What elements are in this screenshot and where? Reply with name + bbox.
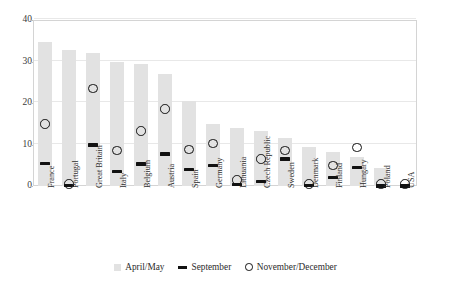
marker-september [280,157,290,160]
bar-group [110,20,123,186]
x-axis-tick-label: Great Britain [96,145,104,188]
x-axis-tick-label: Finland [336,163,344,188]
y-axis-tick-label: 30 [10,57,32,67]
y-axis-tick-label: 10 [10,140,32,150]
x-axis-tick-label: Spain [192,169,200,188]
dash-swatch-icon [178,266,187,269]
x-axis-tick-label: Belgium [144,160,152,188]
x-axis-tick-label: France [48,166,56,188]
x-axis-tick-label: Italy [120,173,128,188]
x-axis-tick-label: USA [408,172,416,188]
x-axis-tick-label: Austria [168,164,176,188]
legend-label: September [191,262,231,272]
marker-november-december [160,104,170,114]
marker-november-december [88,84,98,94]
legend-item[interactable]: November/December [245,262,337,272]
x-axis-tick-label: Lithuania [240,157,248,188]
marker-september [40,162,50,165]
y-axis-tick-mark [30,186,33,187]
x-axis-tick-label: Czech Republic [264,136,272,188]
x-axis-tick-label: Sweden [288,162,296,188]
bar-group [158,20,171,186]
seroprevalence-bar-chart: 010203040 FrancePortugalGreat BritainIta… [0,0,451,289]
chart-legend: April/MaySeptemberNovember/December [0,262,451,272]
bar-april-may [110,62,123,187]
marker-november-december [40,119,50,129]
gridline [34,18,416,19]
marker-november-december [136,126,146,136]
x-axis-tick-label: Portugal [72,160,80,188]
marker-november-december [184,145,194,155]
marker-september [160,152,170,155]
x-axis-labels: FrancePortugalGreat BritainItalyBelgiumA… [33,188,417,250]
y-axis-tick-label: 0 [10,181,32,191]
legend-item[interactable]: April/May [114,262,164,272]
legend-label: November/December [257,262,337,272]
y-axis-tick-label: 40 [10,15,32,25]
marker-november-december [352,143,362,153]
legend-label: April/May [125,262,164,272]
x-axis-tick-label: Poland [384,165,392,188]
bar-group [182,20,195,186]
marker-november-december [208,139,218,149]
x-axis-tick-label: Denmark [312,158,320,188]
circle-swatch-icon [245,263,253,271]
x-axis-tick-label: Germany [216,158,224,188]
x-axis-tick-label: Hungary [360,159,368,188]
bar-group [326,20,339,186]
legend-item[interactable]: September [178,262,231,272]
y-axis-tick-label: 20 [10,98,32,108]
bar-swatch-icon [114,264,121,271]
bar-group [38,20,51,186]
bar-group [398,20,411,186]
bar-group [374,20,387,186]
